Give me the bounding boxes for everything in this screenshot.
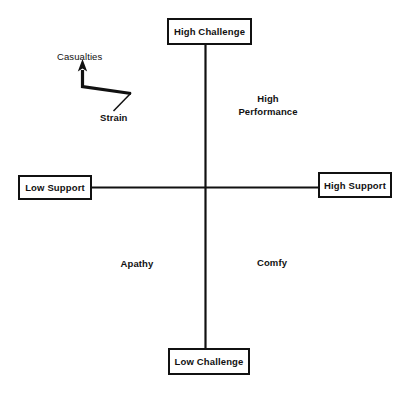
node-high-support[interactable]: High Support xyxy=(318,172,392,198)
quadrant-label-apathy: Apathy xyxy=(107,258,167,271)
quadrant-diagram-canvas: High Challenge Low Challenge Low Support… xyxy=(0,0,412,394)
annotation-label-strain: Strain xyxy=(100,112,128,123)
quadrant-label-high-performance: High Performance xyxy=(228,93,308,118)
node-low-challenge-label: Low Challenge xyxy=(175,356,244,367)
node-high-support-label: High Support xyxy=(324,180,386,191)
node-low-support[interactable]: Low Support xyxy=(18,175,92,200)
quadrant-label-comfy: Comfy xyxy=(242,257,302,270)
node-low-support-label: Low Support xyxy=(25,182,85,193)
annotation-label-casualties: Casualties xyxy=(57,51,102,62)
node-high-challenge[interactable]: High Challenge xyxy=(167,18,252,45)
bent-up-arrow-icon xyxy=(78,59,131,111)
node-high-challenge-label: High Challenge xyxy=(174,26,245,37)
node-low-challenge[interactable]: Low Challenge xyxy=(168,348,250,375)
